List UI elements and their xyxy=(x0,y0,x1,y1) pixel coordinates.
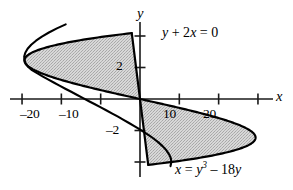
x-tick-label-neg20: –20 xyxy=(20,107,40,121)
plot-svg xyxy=(0,0,293,190)
y-tick-label-2: 2 xyxy=(116,59,123,73)
x-axis-label: x xyxy=(276,89,282,104)
figure-region-between-curves: –20 –10 10 20 2 –2 y x y + 2x = 0 x = y3… xyxy=(0,0,293,190)
shaded-region-upper-left xyxy=(24,33,140,99)
y-tick-label-neg2: –2 xyxy=(106,123,119,137)
lobe-cap-upper xyxy=(110,32,138,33)
x-tick-label-10: 10 xyxy=(163,107,176,121)
y-axis-label: y xyxy=(137,6,143,21)
lobe-cap-lower xyxy=(142,165,170,166)
x-tick-label-20: 20 xyxy=(203,107,216,121)
equation-label-line: y + 2x = 0 xyxy=(162,26,218,40)
x-tick-label-neg10: –10 xyxy=(59,107,79,121)
shaded-region-lower-right xyxy=(140,99,256,165)
equation-label-curve: x = y3 – 18y xyxy=(175,163,241,177)
